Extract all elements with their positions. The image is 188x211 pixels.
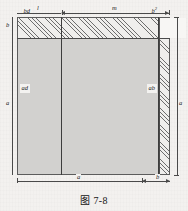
top-strip-divider-right [159,38,170,39]
b-squared-region [159,18,186,38]
region-label-ad: ad [20,84,30,93]
region-label-b-squared-exponent: 2 [155,6,157,11]
dimension-label-a-right: a [178,100,183,107]
dimension-line-left-upper [12,17,13,38]
tick-m-start [62,10,63,15]
dimension-label-b-bottom: b [155,174,160,181]
tick-right-top [174,17,179,18]
dimension-label-b-left: b [5,22,10,29]
dimension-line-bottom-left [17,181,142,182]
region-label-ab: ab [147,84,157,93]
right-column-divider [159,38,160,175]
region-label-b-squared: b2 [150,6,159,16]
page-background: bd b2 ad ab l m a b b a a 图 7-8 [0,0,188,211]
tick-right-bottom [174,175,179,176]
region-label-bd: bd [22,7,32,16]
arrowhead-right-b [166,179,170,183]
dimension-line-top-left [17,13,61,14]
dimension-line-top-right [62,13,169,14]
dimension-line-right [177,17,178,175]
top-strip-divider [17,38,159,39]
inner-rectangle [61,17,159,175]
tick-m-end [169,10,170,15]
figure-caption: 图 7-8 [0,192,188,207]
dimension-label-a-left: a [5,100,10,107]
dimension-label-m: m [111,5,118,12]
geometry-figure [17,17,170,175]
dimension-line-left-lower [12,38,13,175]
arrowhead-left-b [142,179,146,183]
tick-a-start [17,178,18,183]
dimension-label-a-bottom: a [76,174,81,181]
dimension-label-l: l [36,5,40,12]
